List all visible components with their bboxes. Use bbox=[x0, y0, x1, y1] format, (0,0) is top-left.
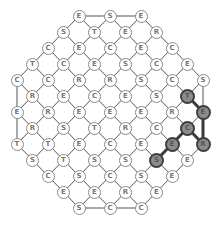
letter-node-selected[interactable]: C bbox=[180, 121, 195, 136]
letter-node-selected[interactable]: E bbox=[165, 137, 180, 152]
game-board: ESESTERCECECTCESCECCRRSCSRECESTEREEERERS… bbox=[0, 0, 222, 231]
letter-node[interactable]: R bbox=[104, 74, 117, 87]
letter-node[interactable]: S bbox=[119, 154, 132, 167]
letter-node[interactable]: E bbox=[57, 90, 70, 103]
letter-node[interactable]: R bbox=[166, 106, 179, 119]
letter-node[interactable]: C bbox=[150, 58, 163, 71]
letter-node[interactable]: E bbox=[135, 106, 148, 119]
letter-node[interactable]: T bbox=[57, 154, 70, 167]
letter-node[interactable]: R bbox=[119, 186, 132, 199]
letter-node[interactable]: E bbox=[73, 138, 86, 151]
letter-node[interactable]: S bbox=[150, 90, 163, 103]
letter-node[interactable]: E bbox=[166, 170, 179, 183]
letter-node[interactable]: C bbox=[42, 74, 55, 87]
letter-node[interactable]: E bbox=[88, 186, 101, 199]
letter-node[interactable]: E bbox=[73, 106, 86, 119]
letter-node[interactable]: S bbox=[104, 10, 117, 23]
letter-node[interactable]: E bbox=[119, 90, 132, 103]
letter-node[interactable]: C bbox=[42, 42, 55, 55]
letter-node[interactable]: C bbox=[104, 202, 117, 215]
letter-node[interactable]: C bbox=[42, 170, 55, 183]
letter-node[interactable]: C bbox=[166, 74, 179, 87]
letter-node[interactable]: R bbox=[26, 122, 39, 135]
letter-node[interactable]: E bbox=[119, 26, 132, 39]
letter-node[interactable]: E bbox=[57, 186, 70, 199]
letter-node[interactable]: T bbox=[11, 138, 24, 151]
letter-node[interactable]: E bbox=[73, 10, 86, 23]
letter-node[interactable]: C bbox=[104, 42, 117, 55]
letter-node-selected[interactable]: T bbox=[180, 89, 195, 104]
letter-node[interactable]: C bbox=[57, 58, 70, 71]
letter-node[interactable]: S bbox=[88, 154, 101, 167]
letter-node[interactable]: E bbox=[11, 106, 24, 119]
letter-node[interactable]: E bbox=[135, 10, 148, 23]
letter-node[interactable]: S bbox=[135, 170, 148, 183]
letter-node[interactable]: C bbox=[150, 122, 163, 135]
letter-node[interactable]: S bbox=[26, 154, 39, 167]
letter-node[interactable]: R bbox=[150, 26, 163, 39]
letter-node[interactable]: C bbox=[88, 90, 101, 103]
letter-node[interactable]: R bbox=[42, 106, 55, 119]
letter-node-selected[interactable]: R bbox=[196, 137, 211, 152]
letter-node-selected[interactable]: S bbox=[149, 153, 164, 168]
letter-node[interactable]: C bbox=[166, 42, 179, 55]
letter-node[interactable]: T bbox=[88, 122, 101, 135]
letter-node[interactable]: R bbox=[73, 74, 86, 87]
letter-node[interactable]: E bbox=[73, 42, 86, 55]
letter-node[interactable]: T bbox=[26, 58, 39, 71]
letter-node[interactable]: S bbox=[119, 58, 132, 71]
letter-node[interactable]: S bbox=[73, 202, 86, 215]
letter-node[interactable]: S bbox=[57, 122, 70, 135]
letter-node[interactable]: S bbox=[57, 26, 70, 39]
letter-node[interactable]: R bbox=[26, 90, 39, 103]
letter-node[interactable]: S bbox=[135, 74, 148, 87]
letter-node[interactable]: E bbox=[88, 58, 101, 71]
letter-node[interactable]: C bbox=[135, 202, 148, 215]
letter-node[interactable]: E bbox=[104, 106, 117, 119]
letter-node[interactable]: S bbox=[73, 170, 86, 183]
letter-node[interactable]: E bbox=[135, 138, 148, 151]
letter-node[interactable]: C bbox=[11, 74, 24, 87]
letter-node[interactable]: C bbox=[104, 170, 117, 183]
letter-node[interactable]: R bbox=[119, 122, 132, 135]
letter-node[interactable]: E bbox=[181, 154, 194, 167]
letter-node[interactable]: T bbox=[42, 138, 55, 151]
letter-node[interactable]: T bbox=[88, 26, 101, 39]
letter-node-selected[interactable]: E bbox=[196, 105, 211, 120]
letter-node[interactable]: C bbox=[104, 138, 117, 151]
letter-node[interactable]: E bbox=[181, 58, 194, 71]
letter-node[interactable]: E bbox=[150, 186, 163, 199]
letter-node[interactable]: S bbox=[197, 74, 210, 87]
letter-node[interactable]: E bbox=[135, 42, 148, 55]
